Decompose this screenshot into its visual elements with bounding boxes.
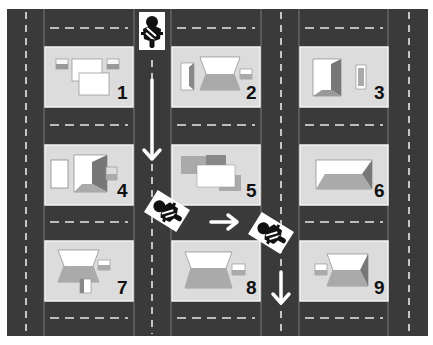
block-3: 3 (300, 47, 388, 107)
block-number-3: 3 (374, 82, 385, 103)
block-6: 6 (300, 145, 388, 205)
block-9: 9 (300, 241, 388, 301)
block-number-8: 8 (246, 277, 257, 298)
block-2: 2 (172, 47, 260, 107)
block-number-7: 7 (117, 277, 128, 298)
block-4: 4 (45, 145, 133, 205)
block-1: 1 (45, 47, 133, 107)
block-number-4: 4 (117, 180, 128, 201)
block-number-5: 5 (246, 180, 257, 201)
block-5: 5 (172, 145, 260, 205)
block-7: 7 (45, 241, 133, 301)
block-number-9: 9 (374, 277, 385, 298)
block-number-6: 6 (374, 180, 385, 201)
street-map: 1 2 3 4 5 (0, 0, 433, 345)
motorcycle-icon-start (139, 12, 165, 50)
block-8: 8 (172, 241, 260, 301)
block-number-1: 1 (117, 82, 128, 103)
block-number-2: 2 (246, 82, 257, 103)
